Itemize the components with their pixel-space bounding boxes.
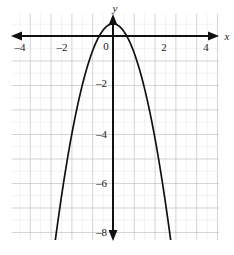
y-tick-label-neg6: –6 [95,177,108,189]
y-tick-label-neg4: –4 [95,128,108,140]
y-tick-label-neg2: –2 [95,77,107,89]
x-tick-label-neg4: –4 [14,41,27,53]
x-axis-name: x [224,30,230,42]
coordinate-plane: –4 –2 2 4 –2 –4 –6 –8 0 x y [0,0,234,255]
origin-label: 0 [103,40,109,52]
graph-figure: –4 –2 2 4 –2 –4 –6 –8 0 x y [0,0,234,255]
x-tick-label-2: 2 [161,41,167,53]
x-tick-label-4: 4 [203,41,209,53]
y-axis-name: y [112,2,118,14]
x-tick-label-neg2: –2 [56,41,68,53]
grid-major [11,14,219,241]
grid-lines [11,14,219,241]
y-tick-label-neg8: –8 [95,226,108,238]
